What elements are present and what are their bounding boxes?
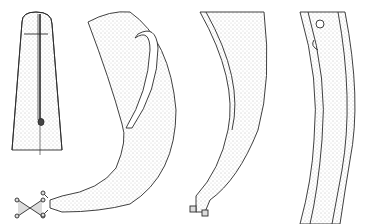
panel-tail-curve [190, 12, 267, 216]
panel-mid-body [300, 12, 355, 224]
panel-head [12, 12, 62, 155]
panel-spicule-tail [41, 12, 176, 217]
panel-tip-cross [15, 198, 45, 218]
figure-canvas [0, 0, 370, 224]
nematode-illustration [0, 0, 370, 224]
